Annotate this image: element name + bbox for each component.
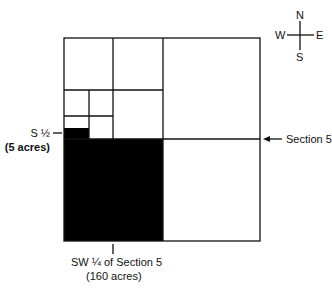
sw-quarter-label: SW ¼ of Section 5 <box>71 256 162 269</box>
compass-north: N <box>296 9 304 22</box>
s-half-label: S ½ <box>30 127 50 140</box>
section-label: Section 5 <box>286 133 332 146</box>
sw-quarter-acres-label: (160 acres) <box>86 270 142 283</box>
sw-quarter-fill <box>64 139 163 241</box>
compass-west: W <box>275 29 285 42</box>
s-half-fill <box>64 128 89 139</box>
compass-south: S <box>296 51 303 64</box>
arrow-left-icon <box>263 136 270 142</box>
s-half-acres-label: (5 acres) <box>5 141 50 154</box>
compass-east: E <box>316 29 323 42</box>
